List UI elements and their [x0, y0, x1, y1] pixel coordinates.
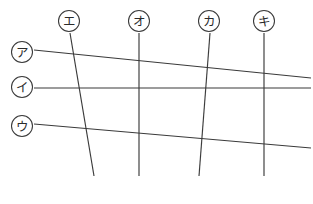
column-label-ka-text: カ [203, 14, 216, 29]
column-label-e-text: エ [63, 14, 76, 29]
column-label-o: オ [129, 11, 150, 32]
column-labels-group: エ オ カ キ [59, 11, 275, 32]
line-u [34, 124, 311, 148]
column-label-ki: キ [254, 11, 275, 32]
column-label-e: エ [59, 11, 80, 32]
line-diagram-figure: ア イ ウ エ オ カ [0, 0, 313, 204]
row-labels-group: ア イ ウ [12, 42, 33, 137]
row-label-a: ア [12, 42, 33, 63]
row-label-a-text: ア [16, 45, 29, 60]
row-label-i-text: イ [16, 80, 29, 95]
column-label-o-text: オ [133, 14, 146, 29]
column-label-ka: カ [199, 11, 220, 32]
diagram-canvas: ア イ ウ エ オ カ [0, 0, 313, 204]
column-label-ki-text: キ [258, 14, 271, 29]
row-label-i: イ [12, 77, 33, 98]
row-label-u-text: ウ [16, 119, 29, 134]
vertical-lines-group [70, 33, 264, 176]
line-ka [199, 33, 210, 176]
row-label-u: ウ [12, 116, 33, 137]
